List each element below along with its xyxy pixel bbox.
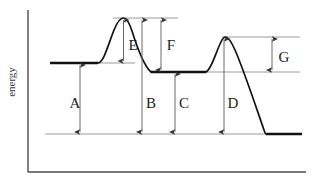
marker-label-G: G <box>279 49 290 65</box>
first-barrier-curve <box>98 18 151 72</box>
marker-label-D: D <box>228 95 239 111</box>
marker-label-E: E <box>128 37 137 53</box>
marker-letters-group: A B C D E F G <box>70 37 290 111</box>
marker-label-B: B <box>146 95 156 111</box>
second-barrier-curve <box>206 37 266 134</box>
guide-lines-group <box>45 18 300 134</box>
energy-curve-group <box>50 18 302 134</box>
marker-label-A: A <box>70 95 81 111</box>
axes-group <box>28 10 306 172</box>
y-axis-label: energy <box>5 67 17 97</box>
marker-label-C: C <box>179 95 189 111</box>
energy-profile-diagram: A B C D E F G energy <box>0 0 312 185</box>
energy-diagram-canvas: A B C D E F G energy <box>0 0 312 185</box>
marker-label-F: F <box>167 37 175 53</box>
